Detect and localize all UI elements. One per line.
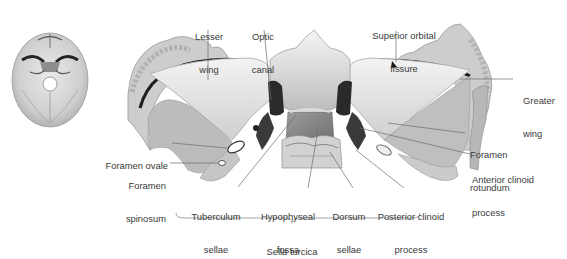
label-lesser-wing: Lesser wing <box>187 9 231 97</box>
label-tuberculum-sellae: Tuberculum sellae <box>182 189 250 259</box>
label-anterior-clinoid-process: Anterior clinoid process <box>472 152 562 240</box>
label-foramen-spinosum: Foramen spinosum <box>110 158 166 246</box>
label-posterior-clinoid-process: Posterior clinoid process <box>366 189 456 259</box>
skull-thumbnail <box>12 33 88 127</box>
label-superior-orbital-fissure: Superior orbital fissure <box>364 8 444 96</box>
label-optic-canal: Optic canal <box>243 9 283 97</box>
label-sella-turcica: Sella turcica <box>250 224 334 259</box>
